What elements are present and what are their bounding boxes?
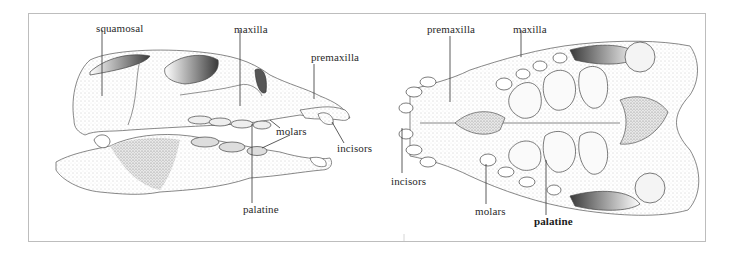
lateral-skull [56,50,350,194]
ventral-skull [399,41,699,215]
label-squamosal-lateral: squamosal [96,23,143,34]
label-incisors-ventral: incisors [391,176,426,187]
label-palatine-lateral: palatine [243,204,279,215]
label-molars-lateral: molars [276,126,307,137]
label-premaxilla-ventral: premaxilla [427,24,475,35]
label-molars-ventral: molars [475,206,506,217]
label-incisors-lateral: incisors [337,143,372,154]
label-maxilla-lateral: maxilla [234,24,268,35]
skull-illustrations [0,0,738,254]
label-premaxilla-lateral: premaxilla [311,52,359,63]
label-maxilla-ventral: maxilla [513,24,547,35]
label-palatine-ventral: palatine [534,216,573,227]
